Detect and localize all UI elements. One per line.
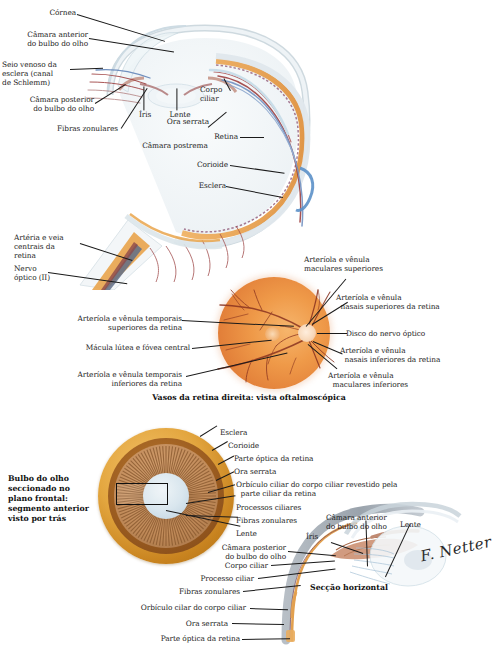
label-f4-optic-part-retina: Parte óptica da retina	[128, 634, 240, 643]
label-f4-iris: Íris	[306, 532, 318, 541]
label-f4-ciliary-orbiculus: Orbículo cilar do corpo ciliar	[96, 603, 246, 612]
label-f4-posterior-chamber: Câmara posterior do bulbo do olho	[186, 543, 286, 561]
label-f4-ciliary-process: Processo ciliar	[166, 574, 254, 583]
plate-canvas: Córnea Câmara anterior do bulbo do olho …	[0, 0, 498, 649]
label-f4-ora-serrata: Ora serrata	[150, 619, 228, 628]
label-f4-zonular-fibers: Fibras zonulares	[150, 587, 240, 596]
label-f4-ciliary-body: Corpo ciliar	[186, 561, 268, 570]
label-f4-lens: Lente	[400, 520, 421, 529]
caption-horizontal-section: Secção horizontal	[310, 583, 388, 593]
figure-horizontal-section-detail: Câmara posterior do bulbo do olho Corpo …	[0, 0, 498, 649]
